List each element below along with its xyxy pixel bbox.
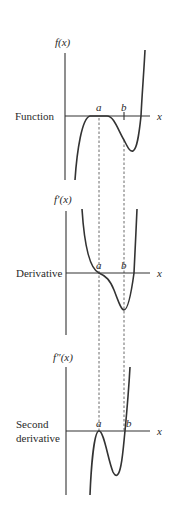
function-row-label: Function: [15, 110, 55, 122]
second-derivative-y-axis-label: f″(x): [53, 351, 73, 364]
second-derivative-row-label-line2: derivative: [16, 432, 60, 444]
derivative-x-axis-label: x: [156, 267, 162, 279]
calculus-diagram: f(x) Function a b x f′(x) Derivative a b…: [0, 0, 175, 507]
function-y-axis-label: f(x): [55, 36, 71, 49]
function-point-b-label: b: [121, 101, 127, 113]
second-derivative-x-axis-label: x: [156, 425, 162, 437]
derivative-point-a-label: a: [96, 259, 102, 271]
function-panel: f(x) Function a b x: [15, 36, 162, 180]
second-derivative-row-label-line1: Second: [16, 418, 49, 430]
second-derivative-point-a-label: a: [96, 417, 102, 429]
derivative-panel: f′(x) Derivative a b x: [16, 193, 162, 335]
derivative-curve: [82, 209, 137, 310]
function-x-axis-label: x: [156, 110, 162, 122]
function-curve: [75, 50, 145, 180]
derivative-row-label: Derivative: [16, 267, 63, 279]
second-derivative-panel: f″(x) Second derivative a b x: [16, 351, 162, 495]
function-point-a-label: a: [96, 101, 102, 113]
derivative-y-axis-label: f′(x): [54, 193, 72, 206]
derivative-point-b-label: b: [121, 259, 127, 271]
